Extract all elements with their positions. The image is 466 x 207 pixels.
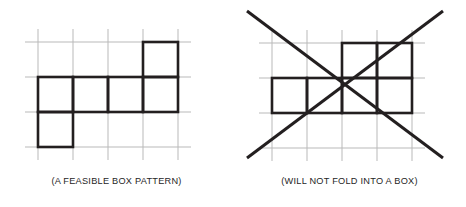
cross-out-mark bbox=[247, 11, 443, 158]
pattern-cell bbox=[143, 42, 178, 77]
figure-panel-feasible: (A FEASIBLE BOX PATTERN) bbox=[0, 0, 233, 207]
pattern-cell bbox=[108, 77, 143, 112]
pattern-cell bbox=[143, 77, 178, 112]
pattern-cell bbox=[377, 78, 412, 113]
figure-panel-infeasible: (WILL NOT FOLD INTO A BOX) bbox=[233, 0, 466, 207]
pattern-cell bbox=[73, 77, 108, 112]
box-pattern-diagram-feasible bbox=[0, 0, 233, 172]
pattern-cell bbox=[38, 112, 73, 147]
caption-feasible: (A FEASIBLE BOX PATTERN) bbox=[0, 176, 233, 186]
box-pattern-diagram-infeasible bbox=[233, 0, 466, 172]
figure-page: (A FEASIBLE BOX PATTERN) (WILL NOT FOLD … bbox=[0, 0, 466, 207]
pattern-cell bbox=[38, 77, 73, 112]
pattern-cell bbox=[272, 78, 307, 113]
caption-infeasible: (WILL NOT FOLD INTO A BOX) bbox=[233, 176, 466, 186]
pattern-outline bbox=[272, 43, 412, 113]
